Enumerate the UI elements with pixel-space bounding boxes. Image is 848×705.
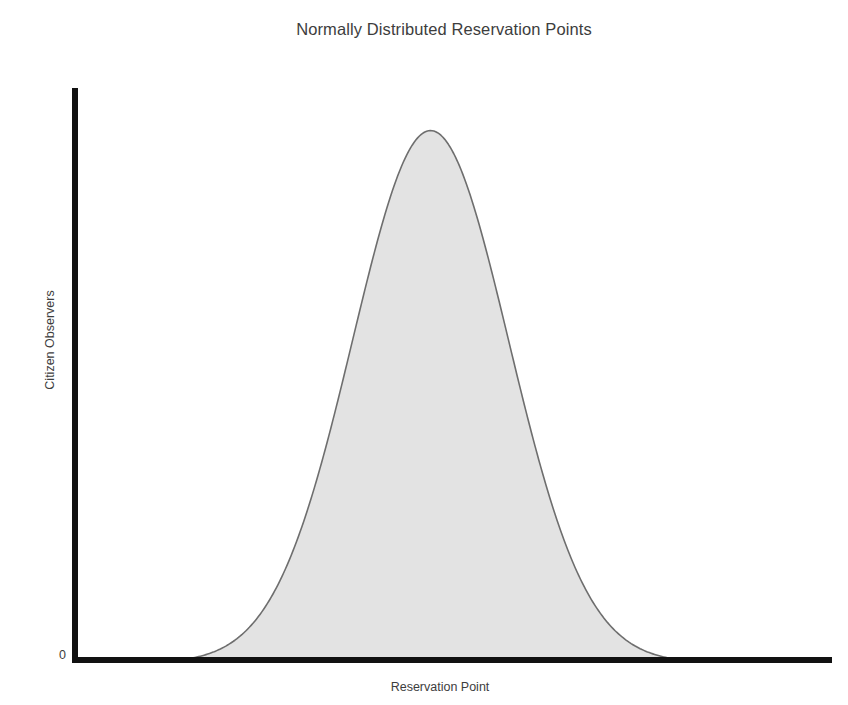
y-axis-label: Citizen Observers xyxy=(43,265,57,415)
plot-area xyxy=(72,88,832,663)
y-axis-line xyxy=(72,88,78,663)
x-axis-line xyxy=(72,657,832,663)
chart-title: Normally Distributed Reservation Points xyxy=(0,20,848,39)
x-axis-label: Reservation Point xyxy=(72,680,808,694)
y-axis-origin-tick-label: 0 xyxy=(52,648,66,662)
normal-distribution-curve xyxy=(72,88,832,663)
chart-figure: Normally Distributed Reservation Points … xyxy=(0,0,848,705)
distribution-area-path xyxy=(72,131,832,663)
